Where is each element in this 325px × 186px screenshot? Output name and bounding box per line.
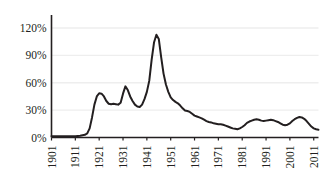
- y-axis-tick-labels: 0%30%60%90%120%: [20, 22, 47, 144]
- y-axis-tick-label: 60%: [25, 77, 47, 89]
- x-axis-tick-label: 1911: [69, 145, 81, 168]
- x-axis-tick-label: 1981: [236, 145, 248, 168]
- x-axis-tick-label: 2001: [284, 145, 296, 168]
- line-chart: 0%30%60%90%120% 190119111921193119411951…: [0, 0, 325, 186]
- x-axis-tick-label: 1991: [260, 145, 272, 168]
- x-axis-tick-label: 2011: [308, 145, 320, 168]
- x-axis-tick-label: 1961: [189, 145, 201, 168]
- x-axis-tick-label: 1931: [117, 145, 129, 168]
- y-axis-tick-label: 120%: [20, 22, 47, 34]
- y-axis-tick-label: 0%: [31, 132, 47, 144]
- gridlines: [52, 28, 319, 110]
- x-axis-tick-label: 1971: [212, 145, 224, 168]
- data-series-line: [52, 35, 319, 137]
- y-axis-tick-label: 90%: [25, 49, 47, 61]
- plot-line-group: [52, 35, 319, 137]
- chart-figure: 0%30%60%90%120% 190119111921193119411951…: [0, 0, 325, 186]
- x-axis-tick-label: 1941: [141, 145, 153, 168]
- x-axis-tick-label: 1951: [165, 145, 177, 168]
- y-axis-tick-label: 30%: [25, 104, 47, 116]
- x-axis-tick-label: 1901: [46, 145, 58, 168]
- x-axis-tick-labels: 1901191119211931194119511961197119811991…: [46, 145, 320, 168]
- x-axis-tick-label: 1921: [93, 145, 105, 168]
